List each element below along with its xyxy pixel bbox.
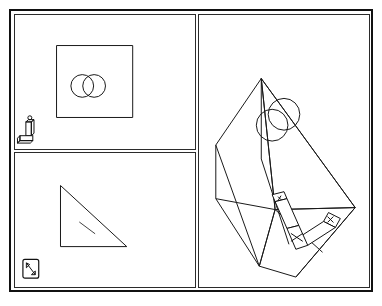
interior-hatch-line <box>79 222 95 234</box>
drawing-area: Front View <box>9 9 373 292</box>
viewport-panel-front-view[interactable]: Front View <box>14 14 196 150</box>
viewport-panel-3d-view[interactable]: 3D Perspective View <box>198 14 370 288</box>
isometric-view-canvas[interactable] <box>199 15 369 287</box>
wedge-left-face <box>216 79 275 267</box>
wedge-right-slant-edge <box>261 79 355 208</box>
wedge-lower-left-diagonal <box>216 199 275 210</box>
axis-gizmo-x-arm <box>20 136 33 141</box>
transform-manipulator-gizmo[interactable] <box>272 192 340 250</box>
axis-gizmo[interactable] <box>17 116 34 143</box>
view-navigation-icon[interactable] <box>23 259 39 278</box>
cad-application-window: Front View <box>0 0 382 306</box>
square-outline <box>57 46 133 118</box>
wedge-prism-body <box>216 79 355 278</box>
axis-gizmo-z-side <box>31 120 34 136</box>
front-view-canvas[interactable] <box>15 15 195 149</box>
viewport-panel-side-view[interactable]: Side View <box>14 152 196 288</box>
side-view-canvas[interactable] <box>15 153 195 287</box>
right-triangle-profile <box>60 186 126 247</box>
axis-gizmo-x-base <box>17 141 32 143</box>
axis-gizmo-z-post <box>26 122 31 136</box>
wedge-lower-left-edge <box>216 199 259 267</box>
